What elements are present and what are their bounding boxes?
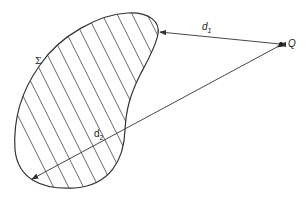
region-sigma-label: Σ [35,57,41,66]
d2-label: d2 [94,129,103,141]
diagram-canvas [0,0,306,199]
d1-label: d1 [202,22,211,34]
hatching [0,0,255,199]
d1-arrow [160,32,280,44]
point-q-dot [279,42,283,46]
point-q-label: Q [288,39,296,49]
region-sigma-outline [15,13,159,188]
